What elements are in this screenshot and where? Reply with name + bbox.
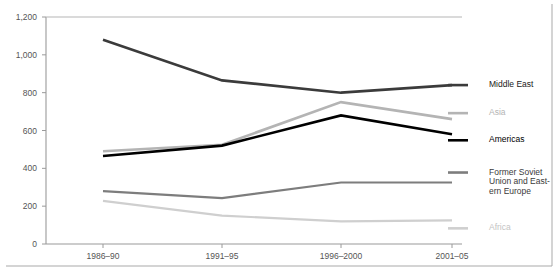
legend-label-line: ern Europe xyxy=(489,186,531,196)
x-tick-label: 1986–90 xyxy=(86,251,119,261)
y-tick-label: 800 xyxy=(23,88,37,98)
legend-label-line: Union and East- xyxy=(489,176,550,186)
x-tick-label: 1991–95 xyxy=(205,251,238,261)
y-tick-label: 0 xyxy=(32,239,37,249)
x-tick-label: 2001–05 xyxy=(435,251,468,261)
legend-label-line: Americas xyxy=(489,135,524,145)
legend-label-africa[interactable]: Africa xyxy=(489,223,511,233)
y-tick-label: 1,200 xyxy=(16,12,38,22)
legend-label-line: Asia xyxy=(489,107,506,117)
y-tick-label: 600 xyxy=(23,126,37,136)
legend-label-middle-east[interactable]: Middle East xyxy=(489,79,534,89)
y-tick-label: 200 xyxy=(23,201,37,211)
legend-label-line: Africa xyxy=(489,223,511,233)
legend-label-asia[interactable]: Asia xyxy=(489,107,506,117)
y-tick-label: 1,000 xyxy=(16,50,38,60)
legend-label-line: Middle East xyxy=(489,79,534,89)
legend-label-line: Former Soviet xyxy=(489,167,543,177)
plot-background xyxy=(0,0,558,277)
x-tick-label: 1996–2000 xyxy=(320,251,363,261)
line-chart: 02004006008001,0001,200 1986–901991–9519… xyxy=(0,0,558,277)
chart-container: 02004006008001,0001,200 1986–901991–9519… xyxy=(0,0,558,277)
y-tick-label: 400 xyxy=(23,163,37,173)
legend-label-americas[interactable]: Americas xyxy=(489,135,524,145)
